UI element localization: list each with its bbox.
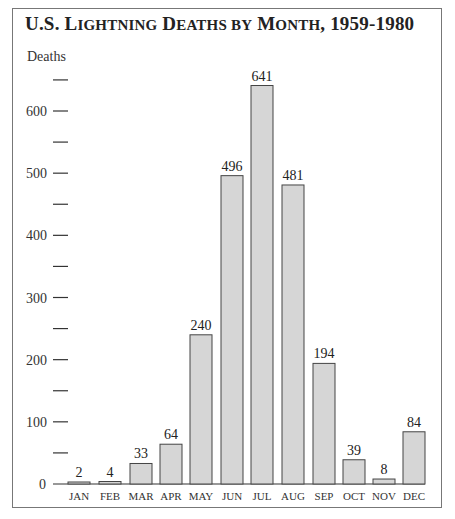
x-tick-label: OCT bbox=[343, 490, 365, 502]
value-label: 8 bbox=[381, 462, 388, 477]
bar-oct bbox=[343, 460, 365, 484]
value-label: 33 bbox=[134, 446, 148, 461]
x-tick-label: JUL bbox=[253, 490, 272, 502]
value-label: 194 bbox=[314, 346, 335, 361]
bar-apr bbox=[160, 444, 182, 484]
y-tick-label: 400 bbox=[26, 228, 47, 243]
y-tick-label: 100 bbox=[26, 415, 47, 430]
x-tick-label: NOV bbox=[372, 490, 396, 502]
value-label: 240 bbox=[191, 318, 212, 333]
x-tick-label: MAY bbox=[189, 490, 214, 502]
bar-jan bbox=[68, 482, 90, 484]
bar-chart: 01002003004005006002JAN4FEB33MAR64APR240… bbox=[0, 0, 455, 519]
bar-dec bbox=[403, 432, 425, 484]
y-tick-label: 600 bbox=[26, 104, 47, 119]
y-tick-label: 200 bbox=[26, 353, 47, 368]
x-tick-label: FEB bbox=[100, 490, 120, 502]
bar-may bbox=[190, 335, 212, 484]
y-tick-label: 0 bbox=[39, 477, 46, 492]
x-tick-label: SEP bbox=[315, 490, 334, 502]
value-label: 2 bbox=[76, 465, 83, 480]
value-label: 481 bbox=[283, 168, 304, 183]
bar-jul bbox=[251, 86, 273, 484]
x-tick-label: MAR bbox=[128, 490, 154, 502]
value-label: 84 bbox=[407, 415, 421, 430]
bar-jun bbox=[221, 176, 243, 484]
value-label: 4 bbox=[107, 465, 114, 480]
value-label: 39 bbox=[347, 443, 361, 458]
x-tick-label: JAN bbox=[69, 490, 89, 502]
value-label: 64 bbox=[164, 427, 178, 442]
value-label: 496 bbox=[222, 159, 243, 174]
y-tick-label: 500 bbox=[26, 166, 47, 181]
bar-aug bbox=[282, 185, 304, 484]
bar-nov bbox=[373, 479, 395, 484]
value-label: 641 bbox=[252, 69, 273, 84]
x-tick-label: DEC bbox=[403, 490, 425, 502]
x-tick-label: JUN bbox=[222, 490, 242, 502]
bar-sep bbox=[313, 363, 335, 484]
x-tick-label: AUG bbox=[281, 490, 305, 502]
bar-mar bbox=[130, 463, 152, 484]
bar-feb bbox=[99, 482, 121, 484]
y-tick-label: 300 bbox=[26, 291, 47, 306]
x-tick-label: APR bbox=[160, 490, 182, 502]
